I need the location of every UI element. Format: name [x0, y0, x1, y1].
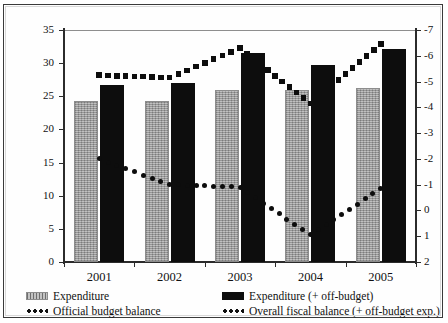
dot-overall-fiscal-balance — [308, 101, 314, 107]
left-axis-tick-label: 15 — [28, 157, 54, 168]
left-axis-tick-label: 5 — [28, 223, 54, 234]
dot-overall-fiscal-balance — [343, 71, 349, 77]
dot-official-budget-balance — [269, 206, 274, 211]
dot-overall-fiscal-balance — [244, 51, 250, 57]
left-axis-tick — [59, 63, 64, 64]
bar-expenditure-offbudget — [100, 85, 124, 262]
dot-overall-fiscal-balance — [176, 71, 182, 77]
left-axis-tick — [59, 30, 64, 31]
dot-official-budget-balance — [132, 169, 137, 174]
right-axis-tick — [416, 30, 421, 31]
x-axis-category-label: 2005 — [346, 271, 416, 284]
bar-expenditure-offbudget — [171, 83, 195, 262]
left-axis-tick-label: 25 — [28, 90, 54, 101]
x-axis-tick — [64, 262, 65, 267]
left-axis-tick-label: 0 — [28, 256, 54, 267]
x-axis-category-label: 2002 — [135, 271, 205, 284]
dot-overall-fiscal-balance — [193, 64, 199, 70]
dot-official-budget-balance — [331, 217, 336, 222]
dot-official-budget-balance — [238, 185, 243, 190]
legend-item-official-budget-balance: Official budget balance — [26, 305, 161, 317]
right-axis-tick-label: -3 — [424, 127, 448, 138]
left-axis-tick-label: 10 — [28, 190, 54, 201]
x-axis-tick — [205, 262, 206, 267]
bar-expenditure — [356, 88, 380, 262]
x-axis-tick — [346, 262, 347, 267]
x-axis-tick — [416, 262, 417, 267]
right-axis-tick-label: -4 — [424, 101, 448, 112]
dot-overall-fiscal-balance — [322, 89, 328, 95]
dot-official-budget-balance — [123, 166, 128, 171]
dot-official-budget-balance — [194, 183, 199, 188]
dot-overall-fiscal-balance — [350, 65, 356, 71]
bar-expenditure — [285, 90, 309, 262]
bar-expenditure — [74, 101, 98, 262]
legend-label: Expenditure — [53, 290, 109, 302]
chart-frame: 05101520253035 -7-6-5-4-3-2-1012 2001200… — [3, 4, 443, 318]
left-axis-tick — [59, 229, 64, 230]
dot-official-budget-balance — [106, 160, 111, 165]
dot-overall-fiscal-balance — [357, 59, 363, 65]
right-axis-tick — [416, 210, 421, 211]
right-axis-tick — [416, 107, 421, 108]
right-axis-tick — [416, 185, 421, 186]
dot-official-budget-balance — [211, 184, 216, 189]
dot-official-budget-balance — [150, 176, 155, 181]
plot-area — [64, 30, 416, 262]
dot-overall-fiscal-balance — [336, 77, 342, 83]
right-axis-tick-label: 0 — [424, 204, 448, 215]
right-axis-tick-label: -6 — [424, 50, 448, 61]
legend-label: Expenditure (+ off-budget) — [249, 290, 373, 302]
dot-overall-fiscal-balance — [105, 73, 111, 79]
x-axis-category-label: 2004 — [275, 271, 345, 284]
dotted-swatch-icon — [222, 307, 244, 315]
right-axis-tick — [416, 82, 421, 83]
bar-expenditure — [145, 101, 169, 262]
legend-item-expenditure: Expenditure — [26, 290, 109, 302]
dot-overall-fiscal-balance — [258, 62, 264, 68]
left-axis-tick-label: 20 — [28, 123, 54, 134]
x-axis-category-label: 2003 — [205, 271, 275, 284]
dot-official-budget-balance — [202, 183, 207, 188]
right-axis-tick-label: 1 — [424, 230, 448, 241]
dot-official-budget-balance — [355, 202, 360, 207]
left-axis-tick — [59, 96, 64, 97]
dot-overall-fiscal-balance — [279, 79, 285, 85]
bar-expenditure-offbudget — [382, 49, 406, 262]
dot-overall-fiscal-balance — [364, 53, 370, 59]
legend-row-1: Expenditure Expenditure (+ off-budget) — [26, 290, 430, 305]
dot-overall-fiscal-balance — [220, 53, 226, 59]
dot-overall-fiscal-balance — [294, 90, 300, 96]
left-axis-tick — [59, 196, 64, 197]
dot-overall-fiscal-balance — [202, 60, 208, 66]
dot-overall-fiscal-balance — [265, 67, 271, 73]
dot-overall-fiscal-balance — [140, 74, 146, 80]
dot-overall-fiscal-balance — [167, 75, 173, 81]
left-axis-tick — [59, 129, 64, 130]
dot-official-budget-balance — [185, 183, 190, 188]
dot-overall-fiscal-balance — [237, 45, 243, 51]
right-axis-tick — [416, 133, 421, 134]
dot-overall-fiscal-balance — [114, 73, 120, 79]
dot-overall-fiscal-balance — [132, 74, 138, 80]
dot-official-budget-balance — [347, 207, 352, 212]
dotted-swatch-icon — [26, 307, 48, 315]
dot-overall-fiscal-balance — [123, 73, 129, 79]
legend-label: Official budget balance — [53, 305, 161, 317]
x-axis-tick — [134, 262, 135, 267]
right-axis-tick-label: -1 — [424, 179, 448, 190]
dot-overall-fiscal-balance — [251, 56, 257, 62]
dot-overall-fiscal-balance — [315, 95, 321, 101]
dot-official-budget-balance — [277, 211, 282, 216]
dot-overall-fiscal-balance — [184, 68, 190, 74]
dot-overall-fiscal-balance — [329, 83, 335, 89]
dot-overall-fiscal-balance — [96, 72, 102, 78]
left-axis-tick-label: 35 — [28, 24, 54, 35]
dot-overall-fiscal-balance — [378, 41, 384, 47]
dot-official-budget-balance — [339, 212, 344, 217]
right-axis-tick-label: 2 — [424, 256, 448, 267]
dot-official-budget-balance — [324, 222, 329, 227]
legend-item-overall-fiscal-balance: Overall fiscal balance (+ off-budget exp… — [222, 305, 440, 317]
dot-overall-fiscal-balance — [371, 47, 377, 53]
legend-row-2: Official budget balance Overall fiscal b… — [26, 305, 430, 320]
